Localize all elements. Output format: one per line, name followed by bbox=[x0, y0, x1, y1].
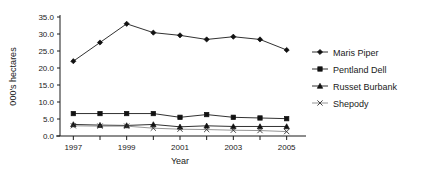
marker-square bbox=[98, 111, 102, 115]
legend-label: Pentland Dell bbox=[333, 65, 387, 75]
marker-square bbox=[284, 116, 288, 120]
y-tick-label: 10.0 bbox=[38, 98, 54, 107]
legend-label: Maris Piper bbox=[333, 48, 379, 58]
x-tick-label: 1997 bbox=[64, 143, 82, 152]
marker-diamond bbox=[204, 37, 209, 42]
x-tick-label: 2001 bbox=[171, 143, 189, 152]
marker-square bbox=[151, 111, 155, 115]
marker-diamond bbox=[177, 33, 182, 38]
x-tick-label: 2005 bbox=[278, 143, 296, 152]
chart-canvas: 0.05.010.015.020.025.030.035.01997199920… bbox=[0, 0, 431, 178]
line-chart-figure: 0.05.010.015.020.025.030.035.01997199920… bbox=[0, 0, 431, 178]
y-tick-label: 35.0 bbox=[38, 13, 54, 22]
y-axis-title: 000's hectares bbox=[8, 47, 18, 106]
marker-square bbox=[71, 111, 75, 115]
marker-square bbox=[178, 115, 182, 119]
x-tick-label: 1999 bbox=[118, 143, 136, 152]
marker-diamond bbox=[284, 47, 289, 52]
series-line-maris-piper bbox=[73, 24, 286, 61]
marker-diamond bbox=[317, 49, 322, 54]
marker-square bbox=[231, 115, 235, 119]
marker-diamond bbox=[151, 30, 156, 35]
marker-diamond bbox=[257, 37, 262, 42]
legend-item-russet-burbank[interactable]: Russet Burbank bbox=[312, 82, 398, 92]
y-tick-label: 30.0 bbox=[38, 30, 54, 39]
marker-square bbox=[204, 112, 208, 116]
y-tick-label: 25.0 bbox=[38, 47, 54, 56]
x-axis-title: Year bbox=[171, 156, 189, 166]
legend-item-pentland-dell[interactable]: Pentland Dell bbox=[312, 65, 387, 75]
marker-diamond bbox=[231, 34, 236, 39]
marker-square bbox=[124, 111, 128, 115]
marker-square bbox=[258, 116, 262, 120]
y-tick-label: 20.0 bbox=[38, 64, 54, 73]
marker-square bbox=[318, 67, 322, 71]
legend-label: Shepody bbox=[333, 99, 369, 109]
y-tick-label: 0.0 bbox=[43, 132, 55, 141]
legend-item-shepody[interactable]: Shepody bbox=[312, 99, 369, 109]
x-tick-label: 2003 bbox=[224, 143, 242, 152]
y-tick-label: 5.0 bbox=[43, 115, 55, 124]
y-tick-label: 15.0 bbox=[38, 81, 54, 90]
legend-item-maris-piper[interactable]: Maris Piper bbox=[312, 48, 379, 58]
legend-label: Russet Burbank bbox=[333, 82, 398, 92]
